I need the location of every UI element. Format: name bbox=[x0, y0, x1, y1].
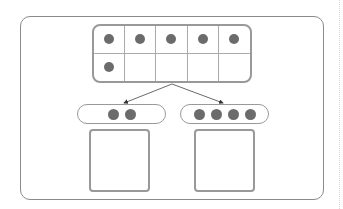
part-pill-right bbox=[180, 104, 269, 124]
answer-box-left[interactable] bbox=[89, 129, 150, 192]
answer-box-right[interactable] bbox=[194, 129, 255, 192]
counter-dot bbox=[194, 109, 205, 120]
part-pill-left bbox=[77, 104, 166, 124]
counter-dot bbox=[245, 109, 256, 120]
counter-dot bbox=[108, 109, 119, 120]
arrow-right bbox=[172, 84, 223, 103]
arrow-left bbox=[124, 84, 172, 103]
counter-dot bbox=[211, 109, 222, 120]
counter-dot bbox=[125, 109, 136, 120]
split-arrows bbox=[0, 0, 343, 209]
counter-dot bbox=[228, 109, 239, 120]
